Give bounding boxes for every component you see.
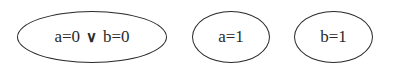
node-a0-or-b0: a=0 ∨ b=0 (17, 11, 167, 63)
node-a1: a=1 (192, 11, 270, 63)
diagram-canvas: a=0 ∨ b=0 a=1 b=1 (0, 0, 394, 70)
node-label: b=1 (320, 27, 347, 47)
node-label: a=1 (218, 27, 244, 47)
node-b1: b=1 (294, 11, 373, 63)
logical-or-symbol: ∨ (86, 28, 97, 46)
node-label-left: a=0 (54, 27, 80, 47)
node-label-right: b=0 (103, 27, 130, 47)
